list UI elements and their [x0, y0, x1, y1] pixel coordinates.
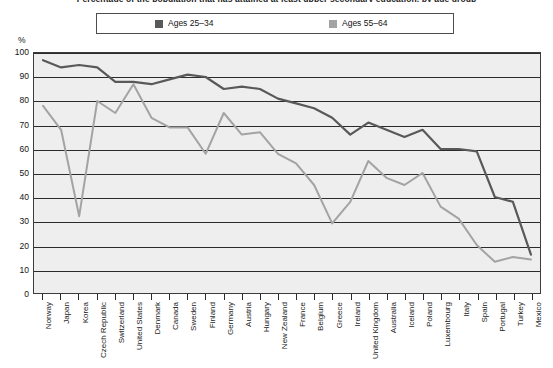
x-tick-label: Turkey: [517, 302, 525, 326]
x-tick-label: Luxembourg: [444, 302, 452, 346]
x-tick-label: United States: [136, 302, 144, 350]
x-tick-label: Belgium: [317, 302, 325, 331]
chart-legend: Ages 25–34 Ages 55–64: [96, 13, 454, 34]
x-tick-label: Denmark: [154, 302, 162, 334]
x-tick-label: Japan: [63, 302, 71, 324]
x-tick-label: Portugal: [499, 302, 507, 332]
x-tick-label: Germany: [227, 302, 235, 335]
x-tick: [478, 294, 479, 300]
y-axis-ticks: 0102030405060708090100: [0, 52, 29, 294]
x-tick: [60, 294, 61, 300]
x-tick: [78, 294, 79, 300]
x-tick: [351, 294, 352, 300]
x-tick: [514, 294, 515, 300]
x-tick-label: New Zealand: [281, 302, 289, 349]
x-tick: [496, 294, 497, 300]
legend-label-ages-55-64: Ages 55–64: [342, 19, 387, 28]
y-tick-label: 20: [3, 241, 29, 251]
series-line-ages-55-64: [43, 84, 531, 262]
series-line-ages-25-34: [43, 60, 531, 254]
x-tick-label: Norway: [45, 302, 53, 329]
x-tick-label: Spain: [481, 302, 489, 322]
plot-area: [33, 52, 541, 294]
chart-title: Percentage of the population that has at…: [0, 0, 553, 2]
legend-item-ages-25-34[interactable]: Ages 25–34: [155, 19, 213, 28]
x-tick: [296, 294, 297, 300]
y-tick-label: 100: [3, 47, 29, 57]
x-tick-label: United Kingdom: [372, 302, 380, 359]
x-tick: [169, 294, 170, 300]
x-tick: [459, 294, 460, 300]
x-tick-label: Hungary: [263, 302, 271, 332]
x-tick: [242, 294, 243, 300]
y-tick-label: 40: [3, 192, 29, 202]
x-tick: [115, 294, 116, 300]
x-tick: [224, 294, 225, 300]
legend-label-ages-25-34: Ages 25–34: [168, 19, 213, 28]
x-tick: [97, 294, 98, 300]
x-tick: [151, 294, 152, 300]
x-tick: [441, 294, 442, 300]
chart-root: Percentage of the population that has at…: [0, 0, 553, 368]
x-tick: [42, 294, 43, 300]
y-tick-label: 0: [3, 289, 29, 299]
x-tick: [205, 294, 206, 300]
y-tick-label: 60: [3, 144, 29, 154]
x-tick: [405, 294, 406, 300]
x-tick-label: Switzerland: [118, 302, 126, 343]
x-tick: [532, 294, 533, 300]
x-tick-label: Mexico: [535, 302, 543, 327]
x-tick-label: Greece: [336, 302, 344, 328]
x-tick: [133, 294, 134, 300]
x-tick: [260, 294, 261, 300]
x-tick-label: Ireland: [354, 302, 362, 326]
x-tick: [423, 294, 424, 300]
y-tick-label: 30: [3, 216, 29, 226]
x-tick-label: Sweden: [190, 302, 198, 331]
x-tick: [387, 294, 388, 300]
x-tick: [369, 294, 370, 300]
x-tick-label: France: [299, 302, 307, 327]
y-tick-label: 90: [3, 71, 29, 81]
series-lines: [34, 53, 540, 293]
legend-swatch-dark-icon: [155, 20, 163, 28]
x-tick: [314, 294, 315, 300]
y-tick-label: 50: [3, 168, 29, 178]
x-tick: [187, 294, 188, 300]
y-tick-label: 10: [3, 265, 29, 275]
x-tick-label: Korea: [82, 302, 90, 323]
x-tick: [332, 294, 333, 300]
y-axis-unit: %: [18, 35, 26, 45]
x-tick-label: Iceland: [408, 302, 416, 328]
x-tick-label: Italy: [463, 302, 471, 317]
legend-item-ages-55-64[interactable]: Ages 55–64: [329, 19, 387, 28]
x-tick-label: Czech Republic: [100, 302, 108, 358]
legend-swatch-light-icon: [329, 20, 337, 28]
x-tick-label: Poland: [426, 302, 434, 327]
y-tick-label: 80: [3, 95, 29, 105]
x-tick-label: Canada: [172, 302, 180, 330]
x-tick-label: Finland: [209, 302, 217, 328]
x-tick-label: Australia: [390, 302, 398, 333]
x-tick-label: Austria: [245, 302, 253, 327]
y-tick-label: 70: [3, 120, 29, 130]
x-tick: [278, 294, 279, 300]
